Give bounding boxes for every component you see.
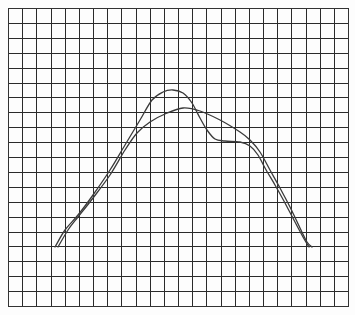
chart-container: Curve A (sharp peak) Curve B (broad peak… <box>0 0 355 315</box>
series-line-curve-b <box>58 108 312 247</box>
line-chart <box>0 0 355 315</box>
grid <box>8 8 349 307</box>
